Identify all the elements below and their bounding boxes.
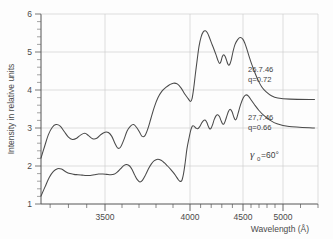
y-tick-label-5: 5 — [27, 47, 32, 57]
x-axis-title: Wavelength (Å) — [251, 224, 309, 234]
gamma-symbol: γ — [250, 148, 255, 160]
vertical-gridlines — [105, 14, 283, 204]
spectrum-chart: 6 5 4 3 2 1 3500 4000 4500 5000 Waveleng… — [0, 0, 333, 239]
y-tick-label-6: 6 — [27, 9, 32, 19]
x-tick-label-4500: 4500 — [234, 212, 253, 222]
spectrum-curve-27-7-46 — [41, 95, 315, 196]
gamma-annotation: γ 0 =60° — [250, 148, 279, 162]
upper-curve-annotation: 26.7.46 q=0.72 — [248, 65, 273, 84]
upper-curve-q: q=0.72 — [248, 75, 271, 84]
y-tick-label-3: 3 — [27, 123, 32, 133]
upper-curve-date: 26.7.46 — [248, 65, 273, 74]
y-axis-major-ticks — [35, 14, 41, 204]
x-tick-label-5000: 5000 — [274, 212, 293, 222]
spectrum-curve-26-7-46 — [41, 31, 315, 158]
figure-container: 6 5 4 3 2 1 3500 4000 4500 5000 Waveleng… — [0, 0, 333, 239]
x-tick-label-4000: 4000 — [181, 212, 200, 222]
lower-curve-q: q=0.66 — [248, 123, 271, 132]
y-tick-label-2: 2 — [27, 161, 32, 171]
lower-curve-annotation: 27,7.46 q=0.66 — [248, 113, 273, 132]
y-axis-minor-ticks — [37, 22, 41, 197]
gamma-value: =60° — [261, 150, 279, 160]
lower-curve-date: 27,7.46 — [248, 113, 273, 122]
y-tick-label-1: 1 — [27, 199, 32, 209]
y-axis-title: Intensity in relative units — [6, 64, 16, 155]
y-tick-label-4: 4 — [27, 85, 32, 95]
x-tick-label-3500: 3500 — [96, 212, 115, 222]
x-axis-ticks — [50, 204, 318, 211]
horizontal-gridlines — [41, 52, 318, 166]
